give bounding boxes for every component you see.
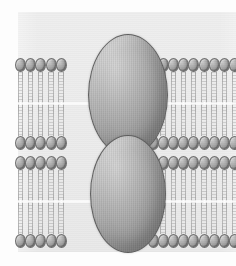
phospholipid-head [229, 136, 236, 150]
phospholipid-head [199, 234, 210, 248]
phospholipid-tails [229, 202, 236, 234]
phospholipid-head [46, 156, 57, 170]
phospholipid-tails [229, 104, 236, 136]
phospholipid-head [199, 58, 210, 72]
phospholipid-head [56, 136, 67, 150]
phospholipid-head [188, 58, 199, 72]
phospholipid-head [35, 234, 46, 248]
phospholipid-head [229, 234, 236, 248]
phospholipid-tails [56, 170, 67, 202]
transmembrane-protein-lower [90, 135, 166, 253]
phospholipid-tails [56, 72, 67, 104]
figure-canvas [0, 0, 236, 266]
phospholipid-head [188, 136, 199, 150]
phospholipid-tails [229, 170, 236, 202]
phospholipid-head [229, 58, 236, 72]
phospholipid-head [188, 234, 199, 248]
phospholipid-head [56, 58, 67, 72]
phospholipid-head [199, 136, 210, 150]
phospholipid-tails [56, 202, 67, 234]
phospholipid-head [188, 156, 199, 170]
phospholipid-tails [229, 72, 236, 104]
phospholipid-head [199, 156, 210, 170]
diagram-panel [18, 12, 236, 252]
phospholipid-head [46, 58, 57, 72]
phospholipid-head [35, 156, 46, 170]
phospholipid-head [46, 136, 57, 150]
phospholipid-head [35, 136, 46, 150]
phospholipid-head [56, 234, 67, 248]
phospholipid-head [46, 234, 57, 248]
phospholipid-head [35, 58, 46, 72]
phospholipid-tails [56, 104, 67, 136]
phospholipid-head [56, 156, 67, 170]
phospholipid-head [229, 156, 236, 170]
